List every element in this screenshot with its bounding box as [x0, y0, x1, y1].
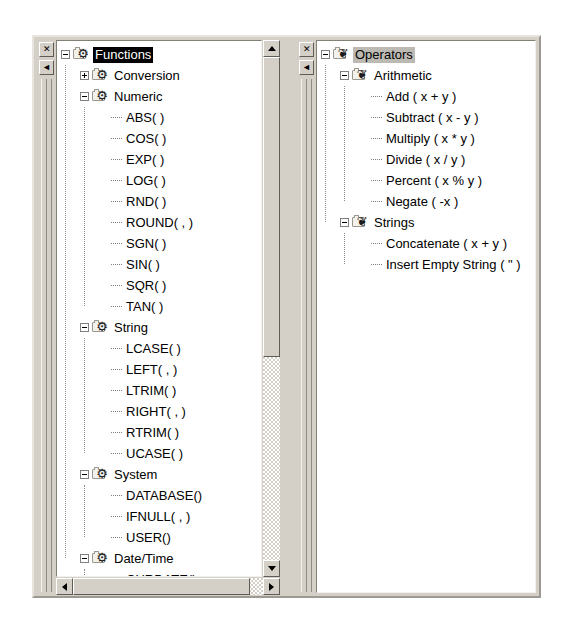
functions-vscroll-track[interactable] [263, 57, 280, 560]
tree-branch-row[interactable]: ⚙Numeric [61, 86, 261, 107]
tree-leaf-row[interactable]: SGN( ) [61, 233, 261, 254]
tree-leaf-row[interactable]: Insert Empty String ( " ) [321, 254, 535, 275]
tree-leaf-row[interactable]: RIGHT( , ) [61, 401, 261, 422]
tree-leaf-row[interactable]: Negate ( -x ) [321, 191, 535, 212]
tree-indent [61, 65, 80, 86]
collapse-left-icon-glyph: ◄ [42, 63, 51, 72]
tree-leaf-row[interactable]: EXP( ) [61, 149, 261, 170]
tree-branch-row[interactable]: ⚙Conversion [61, 65, 261, 86]
collapse-icon[interactable] [80, 92, 89, 101]
functions-vscroll-thumb[interactable] [263, 57, 280, 357]
tree-leaf-row[interactable]: UCASE( ) [61, 443, 261, 464]
tree-leaf-row[interactable]: CURDATE() [61, 569, 261, 577]
close-icon[interactable]: ✕ [299, 42, 314, 57]
collapse-left-icon[interactable]: ◄ [39, 60, 54, 75]
operators-tree[interactable]: ❦Operators❦ArithmeticAdd ( x + y )Subtra… [321, 44, 535, 275]
collapse-icon[interactable] [321, 50, 330, 59]
tree-connector [111, 222, 122, 224]
tree-leaf-row[interactable]: ABS( ) [61, 107, 261, 128]
tree-connector [111, 180, 122, 182]
tree-leaf-row[interactable]: USER() [61, 527, 261, 548]
tree-indent [61, 359, 99, 380]
tree-connector [111, 138, 122, 140]
tree-spacer [359, 92, 371, 101]
gear-folder-icon: ⚙ [92, 320, 109, 335]
functions-hscroll-thumb[interactable] [73, 578, 250, 595]
tree-leaf-row[interactable]: LTRIM( ) [61, 380, 261, 401]
tree-spacer [359, 176, 371, 185]
functions-horizontal-scrollbar[interactable] [56, 578, 280, 595]
collapse-left-icon[interactable]: ◄ [299, 60, 314, 75]
tree-leaf-row[interactable]: SQR( ) [61, 275, 261, 296]
scroll-right-icon[interactable] [263, 578, 280, 595]
tree-leaf-row[interactable]: Subtract ( x - y ) [321, 107, 535, 128]
tree-node-label: System [112, 467, 159, 483]
puzzle-piece-icon: ❦ [356, 215, 368, 228]
tree-node-label: Subtract ( x - y ) [384, 110, 480, 126]
tree-indent [61, 338, 99, 359]
tree-node-label: Numeric [112, 89, 164, 105]
tree-indent [61, 464, 80, 485]
functions-tree-client[interactable]: ⚙Functions⚙Conversion⚙NumericABS( )COS( … [56, 40, 262, 577]
tree-indent [61, 380, 99, 401]
tree-connector [371, 159, 382, 161]
tree-leaf-row[interactable]: Concatenate ( x + y ) [321, 233, 535, 254]
tree-branch-row[interactable]: ❦Arithmetic [321, 65, 535, 86]
close-icon[interactable]: ✕ [39, 42, 54, 57]
tree-connector [111, 453, 122, 455]
tree-leaf-row[interactable]: Multiply ( x * y ) [321, 128, 535, 149]
tree-spacer [99, 449, 111, 458]
tree-leaf-row[interactable]: TAN( ) [61, 296, 261, 317]
tree-leaf-row[interactable]: Divide ( x / y ) [321, 149, 535, 170]
tree-spacer [99, 113, 111, 122]
tree-connector [111, 516, 122, 518]
tree-spacer [99, 407, 111, 416]
tree-branch-row[interactable]: ⚙String [61, 317, 261, 338]
tree-leaf-row[interactable]: RTRIM( ) [61, 422, 261, 443]
tree-leaf-row[interactable]: LCASE( ) [61, 338, 261, 359]
tree-leaf-row[interactable]: Percent ( x % y ) [321, 170, 535, 191]
collapse-icon[interactable] [80, 554, 89, 563]
tree-branch-row[interactable]: ⚙Functions [61, 44, 261, 65]
gear-icon: ⚙ [96, 468, 108, 480]
tree-branch-row[interactable]: ❦Operators [321, 44, 535, 65]
tree-spacer [99, 491, 111, 500]
tree-node-label: TAN( ) [124, 299, 165, 315]
tree-connector [111, 537, 122, 539]
functions-vertical-scrollbar[interactable] [263, 40, 280, 577]
tree-spacer [99, 197, 111, 206]
tree-spacer [99, 176, 111, 185]
tree-leaf-row[interactable]: ROUND( , ) [61, 212, 261, 233]
tree-branch-row[interactable]: ⚙System [61, 464, 261, 485]
collapse-icon[interactable] [340, 218, 349, 227]
functions-tree[interactable]: ⚙Functions⚙Conversion⚙NumericABS( )COS( … [61, 44, 261, 577]
tree-leaf-row[interactable]: IFNULL( , ) [61, 506, 261, 527]
tree-indent [321, 191, 359, 212]
tree-leaf-row[interactable]: LOG( ) [61, 170, 261, 191]
collapse-icon[interactable] [340, 71, 349, 80]
collapse-icon[interactable] [80, 470, 89, 479]
tree-leaf-row[interactable]: SIN( ) [61, 254, 261, 275]
tree-node-label: LOG( ) [124, 173, 168, 189]
tree-branch-row[interactable]: ⚙Date/Time [61, 548, 261, 569]
tree-leaf-row[interactable]: LEFT( , ) [61, 359, 261, 380]
expand-icon[interactable] [80, 71, 89, 80]
gear-icon: ⚙ [96, 90, 108, 102]
tree-leaf-row[interactable]: COS( ) [61, 128, 261, 149]
tree-indent [321, 212, 340, 233]
scroll-down-icon[interactable] [263, 560, 280, 577]
scroll-left-icon[interactable] [56, 578, 73, 595]
functions-hscroll-track[interactable] [73, 578, 263, 595]
tree-indent [61, 86, 80, 107]
gear-icon: ⚙ [96, 552, 108, 564]
tree-leaf-row[interactable]: Add ( x + y ) [321, 86, 535, 107]
tree-leaf-row[interactable]: DATABASE() [61, 485, 261, 506]
collapse-icon[interactable] [80, 323, 89, 332]
collapse-icon[interactable] [61, 50, 70, 59]
scroll-up-icon[interactable] [263, 40, 280, 57]
tree-branch-row[interactable]: ❦Strings [321, 212, 535, 233]
gear-icon: ⚙ [77, 48, 89, 60]
tree-leaf-row[interactable]: RND( ) [61, 191, 261, 212]
tree-indent [321, 65, 340, 86]
operators-tree-client[interactable]: ❦Operators❦ArithmeticAdd ( x + y )Subtra… [316, 40, 536, 593]
